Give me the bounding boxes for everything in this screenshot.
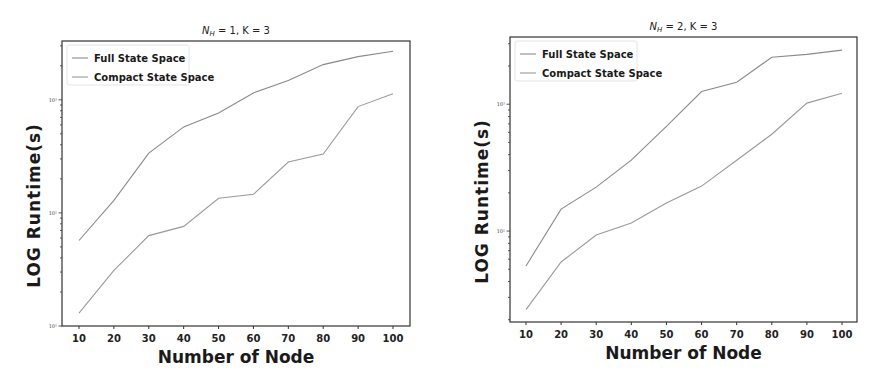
legend-label: Full State Space [94, 53, 186, 64]
x-tick-label: 100 [383, 333, 404, 344]
chart-left-svg: NH = 1, K = 310203040506070809010010¹10²… [0, 0, 444, 387]
series-line-full-state-space [526, 50, 842, 266]
legend-label: Full State Space [542, 49, 634, 60]
x-tick-label: 20 [554, 329, 568, 340]
x-tick-label: 80 [316, 333, 330, 344]
x-tick-label: 100 [832, 329, 853, 340]
x-tick-label: 60 [246, 333, 260, 344]
series-line-compact-state-space [79, 94, 393, 313]
chart-right-svg: NH = 2, K = 310203040506070809010010²10³… [444, 0, 888, 387]
x-tick-label: 20 [107, 333, 121, 344]
y-tick-label: 10² [497, 228, 505, 234]
chart-title: NH = 1, K = 3 [202, 25, 270, 38]
x-tick-label: 30 [142, 333, 156, 344]
x-tick-label: 10 [72, 333, 86, 344]
x-tick-label: 30 [589, 329, 603, 340]
x-tick-label: 90 [351, 333, 365, 344]
x-tick-label: 10 [519, 329, 533, 340]
x-tick-label: 40 [624, 329, 638, 340]
x-tick-label: 40 [177, 333, 191, 344]
x-tick-label: 90 [800, 329, 814, 340]
x-tick-label: 80 [765, 329, 779, 340]
legend-label: Compact State Space [542, 68, 663, 79]
x-tick-label: 50 [212, 333, 226, 344]
chart-left: NH = 1, K = 310203040506070809010010¹10²… [0, 0, 444, 387]
y-tick-label: 10² [49, 210, 57, 216]
x-tick-label: 70 [281, 333, 295, 344]
chart-title: NH = 2, K = 3 [650, 21, 718, 34]
chart-right: NH = 2, K = 310203040506070809010010²10³… [444, 0, 888, 387]
x-axis-label: Number of Node [605, 343, 762, 363]
y-tick-label: 10¹ [49, 323, 57, 329]
x-tick-label: 60 [695, 329, 709, 340]
y-axis-label: LOG Runtime(s) [24, 123, 44, 288]
y-tick-label: 10³ [49, 97, 57, 103]
x-axis-label: Number of Node [158, 347, 315, 367]
legend-label: Compact State Space [94, 72, 215, 83]
x-tick-label: 50 [659, 329, 673, 340]
y-axis-label: LOG Runtime(s) [472, 119, 492, 284]
y-tick-label: 10³ [497, 101, 505, 107]
x-tick-label: 70 [730, 329, 744, 340]
